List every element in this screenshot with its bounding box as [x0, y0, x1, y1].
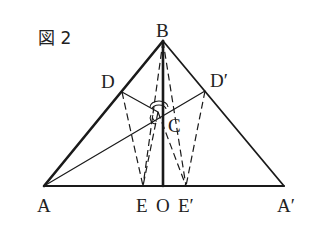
- segment-BA-prime: [163, 41, 284, 186]
- label-E-prime: E′: [178, 195, 194, 216]
- figure-title: 図 2: [38, 28, 71, 48]
- label-A: A: [37, 195, 51, 216]
- label-C: C: [168, 115, 181, 136]
- segment-DC: [122, 92, 158, 112]
- label-B: B: [156, 20, 169, 41]
- segment-D-prime-E-prime: [186, 91, 205, 186]
- label-D: D: [101, 71, 115, 92]
- segment-DE: [122, 92, 143, 186]
- label-E: E: [136, 195, 148, 216]
- label-D-prime: D′: [210, 70, 228, 91]
- segment-AB: [44, 41, 163, 186]
- label-O: O: [156, 195, 170, 216]
- label-A-prime: A′: [277, 195, 295, 216]
- geometry-figure: 図 2 B D D′ C A E O E′ A′: [0, 0, 317, 229]
